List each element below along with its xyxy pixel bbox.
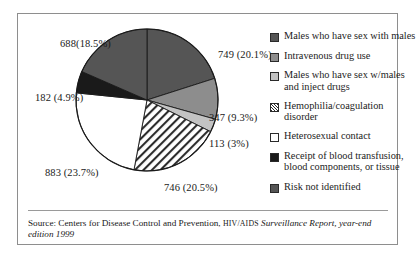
legend-item-hemophilia: Hemophilia/coagulation disorder — [270, 100, 416, 123]
slice-label-males-sex-with-males: 749 (20.1%) — [218, 49, 272, 60]
slice-label-blood-transfusion: 182 (4.9%) — [35, 92, 83, 103]
legend-item-risk-not-identified: Risk not identified — [270, 181, 416, 193]
light-gray-swatch-icon — [270, 72, 279, 81]
footer-divider — [28, 210, 388, 211]
legend-item-males-sex-with-males: Males who have sex with males — [270, 30, 416, 42]
legend-label: Risk not identified — [284, 181, 361, 193]
chart-frame: 688(18.5%) 749 (20.1%) 347 (9.3%) 113 (3… — [17, 13, 398, 245]
hatched-swatch-icon — [270, 103, 279, 112]
legend-item-intravenous-drug-use: Intravenous drug use — [270, 50, 416, 62]
legend-item-males-sex-and-inject: Males who have sex w/males and inject dr… — [270, 69, 416, 92]
legend-label: Males who have sex w/males and inject dr… — [284, 69, 416, 92]
legend-label: Heterosexual contact — [284, 130, 371, 142]
pie-slice-heterosexual-contact — [76, 93, 147, 170]
legend-label: Males who have sex with males — [284, 30, 415, 42]
legend-label: Hemophilia/coagulation disorder — [284, 100, 416, 123]
slice-label-intravenous-drug-use: 347 (9.3%) — [209, 112, 257, 123]
slice-label-heterosexual-contact: 883 (23.7%) — [45, 167, 99, 178]
chart-legend: Males who have sex with males Intravenou… — [270, 30, 416, 200]
source-prefix: Source: Centers for Disease Control and … — [28, 218, 223, 228]
slice-label-hemophilia: 746 (20.5%) — [164, 182, 218, 193]
source-citation: Source: Centers for Disease Control and … — [28, 218, 390, 240]
dark-gray-swatch-icon — [270, 33, 279, 42]
legend-label: Intravenous drug use — [284, 50, 370, 62]
mid-gray-swatch-icon — [270, 53, 279, 62]
legend-label: Receipt of blood transfusion, blood comp… — [284, 150, 416, 173]
slice-label-males-sex-and-inject: 113 (3%) — [209, 138, 249, 149]
black-swatch-icon — [270, 153, 279, 162]
white-swatch-icon — [270, 133, 279, 142]
source-smallcaps: HIV/AIDS — [223, 219, 259, 228]
pie-chart: 688(18.5%) 749 (20.1%) 347 (9.3%) 113 (3… — [18, 14, 238, 199]
dark-gray-swatch-icon — [270, 184, 279, 193]
legend-item-heterosexual-contact: Heterosexual contact — [270, 130, 416, 142]
legend-item-blood-transfusion: Receipt of blood transfusion, blood comp… — [270, 150, 416, 173]
slice-label-risk-not-identified: 688(18.5%) — [60, 38, 111, 49]
